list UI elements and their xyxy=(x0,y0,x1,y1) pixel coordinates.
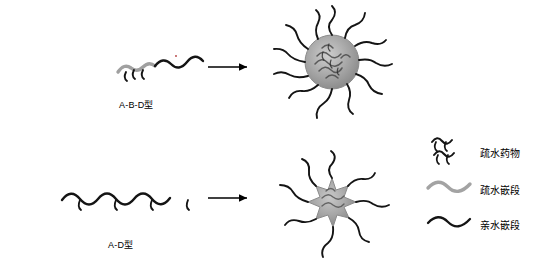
arrow-abd xyxy=(208,63,247,71)
abd-polymer-chain xyxy=(118,55,203,81)
legend-glyph-hydrophilic xyxy=(428,217,470,226)
legend-label-drug: 疏水药物 xyxy=(480,145,520,160)
ad-polymer-chain xyxy=(62,194,189,211)
legend-label-hydrophobic: 疏水嵌段 xyxy=(480,182,520,197)
arrow-ad xyxy=(208,194,247,202)
legend-glyph-hydrophobic xyxy=(428,182,470,191)
micelle-abd xyxy=(274,6,392,118)
polymer-label-ad: A-D型 xyxy=(108,238,133,251)
figure-canvas: A-B-D型 A-D型 疏水药物 疏水嵌段 亲水嵌段 xyxy=(0,0,537,261)
diagram-vector-layer xyxy=(0,0,537,261)
legend-glyph-drug xyxy=(432,138,454,164)
legend-label-hydrophilic: 亲水嵌段 xyxy=(480,217,520,232)
polymer-label-abd: A-B-D型 xyxy=(119,98,154,111)
micelle-ad xyxy=(280,151,389,257)
